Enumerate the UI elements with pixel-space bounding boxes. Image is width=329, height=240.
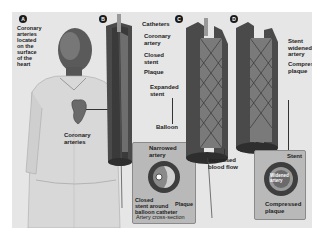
label-balloon: Balloon xyxy=(156,124,178,131)
label-coronary-artery: Coronary artery xyxy=(144,33,171,46)
label-expanded-stent: Expanded stent xyxy=(150,84,179,97)
label-cross-compressed-plaque: Compressed plaque xyxy=(265,201,301,214)
label-closed-stent-balloon: Closed stent around balloon catheter xyxy=(135,197,177,215)
label-plaque: Plaque xyxy=(144,69,164,76)
artery-d-illustration xyxy=(234,18,284,168)
leader-blood-flow xyxy=(224,149,225,157)
label-stent: Stent xyxy=(287,153,302,160)
caption-artery-cross-section: Artery cross-section xyxy=(136,214,185,221)
label-closed-stent: Closed stent xyxy=(144,52,164,65)
label-compressed-plaque: Compressed plaque xyxy=(288,61,312,74)
diagram-panel: A Coronary arteries located on the surfa… xyxy=(12,12,312,228)
leader-cross-section-d xyxy=(288,100,289,150)
panel-badge-c: C xyxy=(175,15,183,23)
artery-c-illustration xyxy=(184,18,236,218)
leader-expanded-stent xyxy=(172,98,173,124)
cross-section-box-d: Stent Widened artery Compressed plaque xyxy=(254,150,306,220)
label-coronary-arteries: Coronary arteries xyxy=(64,132,91,145)
label-catheters: Catheters xyxy=(142,21,170,28)
label-widened-artery: Widened artery xyxy=(270,173,289,183)
artery-cross-section-b xyxy=(147,160,181,194)
label-narrowed-artery: Narrowed artery xyxy=(149,145,177,158)
label-stent-widened-artery: Stent widened artery xyxy=(288,38,312,58)
